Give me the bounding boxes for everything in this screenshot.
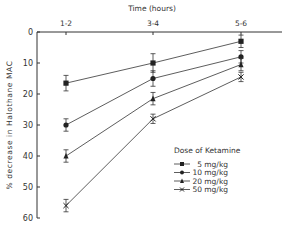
y-tick-label: 20	[23, 90, 33, 99]
y-tick-label: 10	[23, 59, 33, 68]
y-tick-label: 0	[28, 28, 33, 37]
series-line	[66, 57, 241, 125]
x-ticks: 1-2 3-4 5-6	[60, 19, 247, 35]
square-marker-icon	[150, 60, 155, 65]
y-tick-label: 50	[23, 183, 33, 192]
legend: Dose of Ketamine 5 mg/kg10 mg/kg20 mg/kg…	[174, 146, 241, 194]
chart: Time (hours) % decrease in Halothane MAC…	[0, 0, 292, 230]
legend-title: Dose of Ketamine	[174, 146, 241, 155]
y-tick-label: 60	[23, 214, 33, 223]
square-marker-icon	[180, 162, 184, 166]
legend-label: 50 mg/kg	[192, 185, 228, 194]
x-axis-label: Time (hours)	[127, 4, 176, 13]
square-marker-icon	[238, 39, 243, 44]
legend-item: 50 mg/kg	[174, 185, 228, 194]
triangle-marker-icon	[150, 96, 155, 102]
triangle-marker-icon	[63, 153, 68, 159]
x-tick-label: 3-4	[147, 19, 159, 28]
square-marker-icon	[63, 81, 68, 86]
circle-marker-icon	[150, 76, 155, 81]
x-tick-label: 1-2	[60, 19, 72, 28]
y-tick-label: 30	[23, 121, 33, 130]
y-tick-label: 40	[23, 152, 33, 161]
circle-marker-icon	[180, 171, 184, 175]
circle-marker-icon	[63, 122, 68, 127]
triangle-marker-icon	[238, 61, 243, 67]
y-axis-label: % decrease in Halothane MAC	[5, 60, 14, 189]
x-tick-label: 5-6	[235, 19, 247, 28]
